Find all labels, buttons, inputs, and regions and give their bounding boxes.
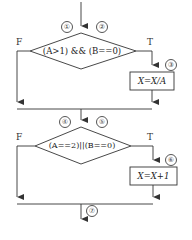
decision-1-true-line xyxy=(136,51,152,65)
marker-5: ⑤ xyxy=(96,116,108,128)
process-2-statement: X=X+1 xyxy=(130,171,177,181)
marker-7: ⑦ xyxy=(86,205,98,217)
marker-3: ③ xyxy=(165,59,177,71)
marker-6: ⑥ xyxy=(165,154,177,166)
decision-2-condition: (A==2)||(B==0) xyxy=(40,141,124,150)
decision-1-false-line xyxy=(17,51,30,102)
marker-2: ② xyxy=(96,21,108,33)
marker-1: ① xyxy=(61,21,73,33)
decision-1-condition: (A>1) && (B==0) xyxy=(36,46,128,56)
decision-1-true-label: T xyxy=(147,38,153,47)
decision-2-false-label: F xyxy=(16,133,22,142)
process-1-statement: X=X/A xyxy=(130,76,174,86)
decision-2-true-line xyxy=(131,146,153,160)
decision-2-true-label: T xyxy=(147,133,153,142)
decision-2-false-line xyxy=(17,146,35,197)
marker-4: ④ xyxy=(59,116,71,128)
decision-1-false-label: F xyxy=(16,38,22,47)
